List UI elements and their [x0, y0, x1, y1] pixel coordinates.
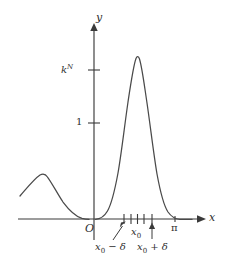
origin-label: O	[85, 223, 94, 234]
annotation-x0-plus-delta-operator: + δ	[147, 241, 168, 252]
annotation-x0-minus-delta-operator: − δ	[105, 241, 126, 252]
annotation-x0-subscript: 0	[137, 232, 141, 240]
y-tick-label-k-to-the-n: kN	[61, 64, 73, 75]
y-axis-arrowhead	[90, 23, 97, 31]
annotation-label-x0-minus-delta: x0 − δ	[95, 242, 126, 255]
y-tick-label-k-exponent: N	[67, 63, 73, 71]
figure-canvas	[0, 0, 225, 273]
curve-main-peak	[96, 57, 193, 220]
x-axis-arrowhead	[197, 215, 206, 223]
x-tick-label-pi: π	[171, 223, 178, 233]
curve-left-lobe	[20, 174, 89, 219]
annotation-label-x0-plus-delta: x0 + δ	[137, 242, 168, 255]
figure-container: y x O kN 1 π x0 x0 − δ x0 + δ	[0, 0, 225, 273]
y-tick-label-one: 1	[76, 117, 82, 127]
pointer-arrowhead-x0-plus-delta	[149, 223, 155, 230]
x-axis-label: x	[209, 212, 215, 223]
pointer-arrowhead-x0-minus-delta	[120, 222, 126, 228]
pointer-line-x0-minus-delta	[113, 226, 123, 240]
annotation-label-x0: x0	[131, 227, 141, 240]
y-axis-label: y	[96, 12, 102, 23]
